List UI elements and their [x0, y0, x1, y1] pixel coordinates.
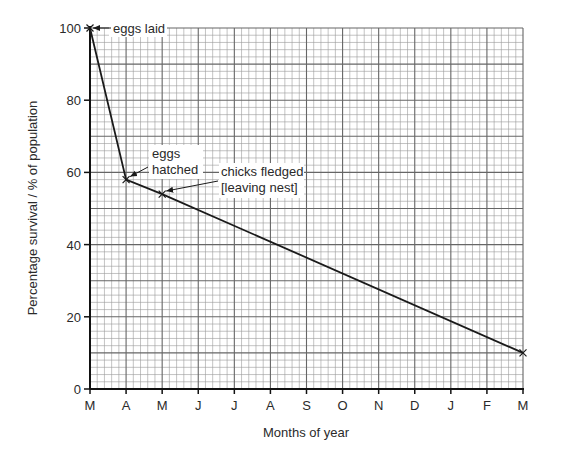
- x-tick-label: D: [410, 398, 419, 413]
- x-tick-label: M: [85, 398, 96, 413]
- x-tick-label: O: [338, 398, 348, 413]
- x-axis-ticks: MAMJJASONDJFM: [85, 389, 529, 413]
- x-tick-label: F: [483, 398, 491, 413]
- x-tick-label: J: [195, 398, 202, 413]
- y-tick-label: 80: [67, 93, 81, 108]
- annotation-eggs-hatched-line2: hatched: [152, 162, 198, 177]
- annotation-arrow-icon: [166, 181, 218, 191]
- y-tick-label: 40: [67, 238, 81, 253]
- y-tick-label: 60: [67, 165, 81, 180]
- y-tick-label: 100: [59, 21, 81, 36]
- annotation-eggs-hatched-line1: eggs: [152, 146, 181, 161]
- x-tick-label: M: [157, 398, 168, 413]
- annotation-chicks-fledged-line1: chicks fledged: [221, 164, 303, 179]
- survival-chart: 020406080100 MAMJJASONDJFM eggs laideggs…: [0, 0, 563, 457]
- x-tick-label: M: [518, 398, 529, 413]
- annotation-arrow-icon: [130, 167, 148, 177]
- x-tick-label: A: [266, 398, 275, 413]
- x-axis-title: Months of year: [263, 425, 350, 440]
- y-axis-ticks: 020406080100: [59, 21, 90, 397]
- x-tick-label: S: [302, 398, 311, 413]
- y-tick-label: 0: [74, 382, 81, 397]
- annotation-chicks-fledged-line2: [leaving nest]: [221, 180, 298, 195]
- y-tick-label: 20: [67, 310, 81, 325]
- x-tick-label: N: [374, 398, 383, 413]
- x-tick-label: A: [122, 398, 131, 413]
- x-tick-label: J: [448, 398, 455, 413]
- x-tick-label: J: [231, 398, 238, 413]
- annotation-eggs-laid: eggs laid: [113, 21, 165, 36]
- y-axis-title: Percentage survival / % of population: [25, 101, 40, 316]
